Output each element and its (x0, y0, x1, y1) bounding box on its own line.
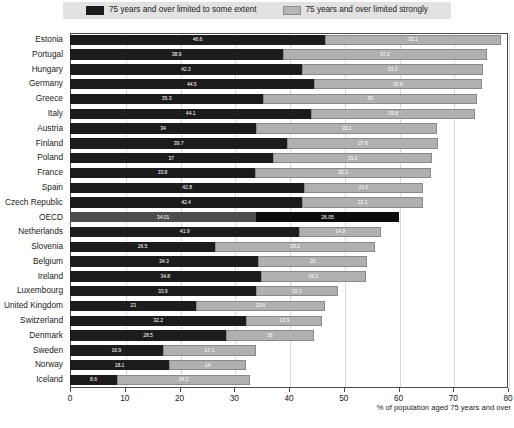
bar-segment-limited-some-extent: 28.5 (70, 330, 226, 340)
category-label: Finland (0, 137, 63, 151)
stacked-bar: 26.529.2 (70, 242, 375, 252)
bar-segment-limited-some-extent: 44.5 (70, 79, 314, 89)
bar-row: 34.320 (70, 255, 508, 269)
bar-segment-limited-some-extent: 18.1 (70, 360, 169, 370)
category-label: Estonia (0, 33, 63, 47)
bar-row: 42.422.1 (70, 196, 508, 210)
stacked-bar: 28.516 (70, 330, 314, 340)
bar-value-label: 37.2 (380, 52, 390, 57)
category-label: OECD (0, 211, 63, 225)
bar-value-label: 29.2 (348, 156, 358, 161)
bar-value-label: 44.1 (186, 111, 196, 116)
bar-segment-limited-some-extent: 32.2 (70, 316, 246, 326)
bar-segment-limited-some-extent: 42.4 (70, 197, 302, 207)
bar-segment-limited-strongly: 22.1 (302, 197, 423, 207)
axis-tick-label: 10 (120, 392, 129, 404)
category-label: Greece (0, 92, 63, 106)
stacked-bar: 42.821.6 (70, 183, 423, 193)
bar-value-label: 13.9 (279, 318, 289, 323)
category-label: Belgium (0, 255, 63, 269)
category-label: Poland (0, 151, 63, 165)
axis-tick-label: 20 (175, 392, 184, 404)
bar-value-label: 37 (168, 156, 174, 161)
stacked-bar: 32.213.9 (70, 316, 322, 326)
bar-segment-limited-some-extent: 16.9 (70, 345, 163, 355)
bar-value-label: 20 (310, 259, 316, 264)
x-axis-title: % of population aged 75 years and over (377, 403, 511, 412)
bar-segment-limited-strongly: 29.2 (215, 242, 375, 252)
bar-segment-limited-strongly: 16 (226, 330, 314, 340)
bar-value-label: 29.8 (388, 111, 398, 116)
bar-segment-limited-some-extent: 39.7 (70, 138, 287, 148)
bar-value-label: 42.4 (181, 200, 191, 205)
bar-value-label: 16 (267, 333, 273, 338)
bar-row: 26.529.2 (70, 240, 508, 254)
bar-row: 42.821.6 (70, 181, 508, 195)
category-label: Slovenia (0, 240, 63, 254)
bar-row: 41.914.9 (70, 225, 508, 239)
category-label: Luxembourg (0, 284, 63, 298)
bar-value-label: 23.6 (256, 303, 266, 308)
stacked-bar: 8.624.2 (70, 375, 250, 385)
stacked-bar: 34.819.2 (70, 271, 366, 281)
bar-row: 33.915.1 (70, 284, 508, 298)
stacked-bar: 44.530.8 (70, 79, 482, 89)
bar-row: 39.727.6 (70, 137, 508, 151)
bar-segment-limited-some-extent: 42.8 (70, 183, 304, 193)
bar-value-label: 33.2 (388, 67, 398, 72)
bar-segment-limited-strongly: 33.1 (256, 123, 437, 133)
source-note-partial (30, 419, 32, 426)
bar-value-label: 33.9 (158, 289, 168, 294)
bar-row: 42.333.2 (70, 63, 508, 77)
bar-row: 18.114 (70, 358, 508, 372)
stacked-bar: 18.114 (70, 360, 246, 370)
dark-square-icon (86, 6, 104, 15)
bar-value-label: 18.1 (115, 363, 125, 368)
stacked-bar: 34.320 (70, 256, 367, 266)
bar-value-label: 34 (160, 126, 166, 131)
bar-segment-limited-some-extent: 41.9 (70, 227, 299, 237)
bar-value-label: 41.9 (180, 229, 190, 234)
bar-value-label: 8.6 (90, 377, 97, 382)
bar-value-label: 42.8 (182, 185, 192, 190)
bar-segment-limited-strongly: 14.9 (299, 227, 381, 237)
bar-segment-limited-some-extent: 34 (70, 123, 256, 133)
category-label: Germany (0, 77, 63, 91)
bar-value-label: 27.6 (358, 141, 368, 146)
stacked-bar: 33.832.2 (70, 168, 431, 178)
bar-segment-limited-strongly: 21.6 (304, 183, 422, 193)
category-label: Italy (0, 107, 63, 121)
stacked-bar: 3729.2 (70, 153, 432, 163)
bar-value-label: 21.6 (359, 185, 369, 190)
bar-value-label: 38.9 (172, 52, 182, 57)
light-square-icon (283, 6, 301, 15)
stacked-bar: 39.727.6 (70, 138, 438, 148)
stacked-bar: 35.339 (70, 94, 477, 104)
bar-segment-limited-strongly: 32.1 (325, 35, 501, 45)
category-label: Hungary (0, 63, 63, 77)
gridline (509, 34, 510, 387)
bar-row: 44.129.8 (70, 107, 508, 121)
bar-segment-limited-strongly: 15.1 (256, 286, 339, 296)
bar-segment-limited-strongly: 24.2 (117, 375, 249, 385)
stacked-bar: 34.0126.05 (70, 212, 399, 222)
chart-legend: 75 years and over limited to some extent… (63, 2, 451, 19)
bar-segment-limited-strongly: 33.2 (302, 64, 484, 74)
category-label: Norway (0, 358, 63, 372)
bar-value-label: 32.2 (153, 318, 163, 323)
bar-row: 32.213.9 (70, 314, 508, 328)
category-label: Switzerland (0, 314, 63, 328)
bar-row: 46.632.1 (70, 33, 508, 47)
category-label: United Kingdom (0, 299, 63, 313)
stacked-bar: 33.915.1 (70, 286, 338, 296)
bar-segment-limited-some-extent: 26.5 (70, 242, 215, 252)
category-label: Portugal (0, 48, 63, 62)
stacked-bar: 16.917.1 (70, 345, 256, 355)
bar-segment-limited-strongly: 13.9 (246, 316, 322, 326)
legend-entry-limited-strongly: 75 years and over limited strongly (283, 6, 428, 15)
bar-value-label: 33.1 (342, 126, 352, 131)
bar-row: 34.0126.05 (70, 211, 508, 225)
bar-value-label: 19.2 (308, 274, 318, 279)
bar-value-label: 33.8 (158, 170, 168, 175)
bar-row: 3729.2 (70, 151, 508, 165)
